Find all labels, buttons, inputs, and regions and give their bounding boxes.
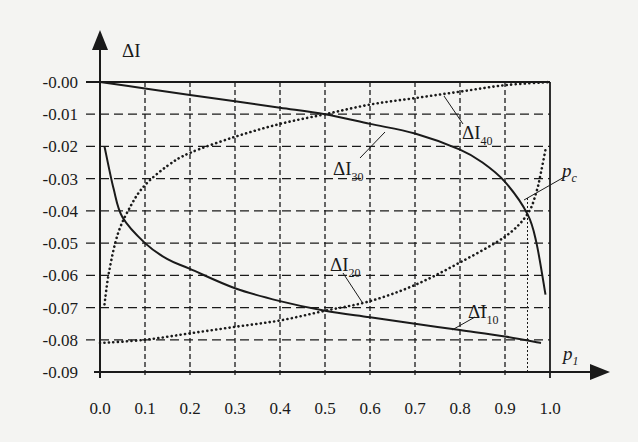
y-tick-label: -0.03 [43,170,78,189]
svg-text:pc: pc [560,160,578,185]
x-tick-label: 0.6 [359,399,380,418]
x-tick-label: 0.9 [494,399,515,418]
y-tick-label: -0.07 [43,299,79,318]
svg-text:ΔI10: ΔI10 [468,301,499,327]
label-dI10: ΔI10 [452,301,499,330]
label-dI20: ΔI20 [330,254,362,302]
y-tick-label: -0.04 [43,202,79,221]
y-tick-label: -0.06 [43,266,78,285]
x-tick-label: 0.3 [224,399,245,418]
x-tick-label: 0.2 [179,399,200,418]
label-dI40: ΔI40 [444,96,493,148]
x-tick-label: 0.5 [314,399,335,418]
x-tick-label: 1.0 [539,399,560,418]
svg-text:ΔI40: ΔI40 [462,122,493,148]
x-tick-label: 0.1 [134,399,155,418]
x-axis-label: p1 [561,343,579,368]
y-axis-label: ΔI [122,40,141,61]
axes [86,30,610,380]
x-tick-label: 0.0 [89,399,110,418]
tick-labels: 0.00.10.20.30.40.50.60.70.80.91.0-0.00-0… [43,73,561,418]
y-tick-label: -0.05 [43,234,78,253]
label-dI30: ΔI30 [333,132,385,184]
y-tick-label: -0.00 [43,73,78,92]
y-tick-label: -0.09 [43,363,78,382]
chart: 0.00.10.20.30.40.50.60.70.80.91.0-0.00-0… [0,0,638,442]
y-tick-label: -0.02 [43,137,78,156]
x-tick-label: 0.8 [449,399,470,418]
y-axis-arrow-icon [92,30,108,50]
y-tick-label: -0.08 [43,331,78,350]
svg-text:ΔI30: ΔI30 [333,158,364,184]
y-tick-label: -0.01 [43,105,78,124]
x-tick-label: 0.7 [404,399,426,418]
x-tick-label: 0.4 [269,399,291,418]
x-axis-arrow-icon [590,364,610,380]
